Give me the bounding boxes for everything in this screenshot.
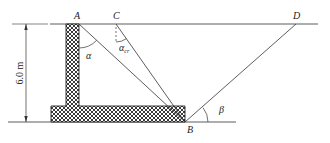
retaining-wall [51,24,185,122]
label-D: D [292,10,301,21]
height-label: 6.0 m [14,61,25,84]
alpha-arc [79,40,97,48]
label-C: C [113,10,120,21]
arrow-up-icon [24,24,27,30]
beta-arc [203,108,208,122]
label-alpha: α [86,50,92,61]
label-B: B [187,124,193,135]
label-alpha-cr: αcr [119,42,130,54]
arrow-down-icon [24,116,27,122]
retaining-wall-diagram: 6.0 m A C D B α αcr β [0,0,330,143]
label-A: A [73,10,81,21]
label-beta: β [218,104,224,115]
line-DB [185,24,296,122]
